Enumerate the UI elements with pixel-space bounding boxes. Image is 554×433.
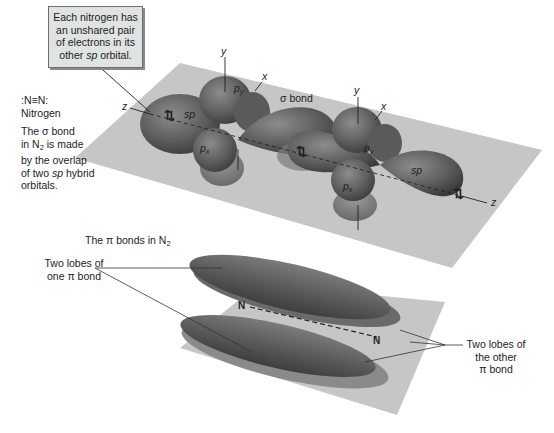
label-line: π bond bbox=[464, 363, 528, 376]
callout-line: an unshared pair bbox=[49, 24, 142, 37]
right-y-axis-label: y bbox=[354, 84, 359, 96]
orbital-sub: x bbox=[206, 147, 210, 156]
caption-line: of two sp hybrid bbox=[21, 167, 95, 180]
pi-title-text: The π bonds in N bbox=[85, 234, 166, 246]
orbital-sub: x bbox=[349, 185, 353, 194]
pi-title-sub: 2 bbox=[166, 239, 170, 248]
label-line: Two lobes of bbox=[44, 257, 104, 270]
callout-orbital: sp bbox=[86, 49, 97, 61]
left-z-axis-label: z bbox=[122, 100, 127, 112]
left-electron-pair-icon: ⇅ bbox=[164, 108, 175, 123]
label-line: Two lobes of bbox=[464, 338, 528, 351]
right-z-axis-label: z bbox=[491, 196, 496, 208]
caption-italic: sp bbox=[52, 167, 63, 179]
right-sp-label: sp bbox=[411, 164, 422, 176]
label-line: the other bbox=[464, 351, 528, 364]
callout-line: Each nitrogen has bbox=[49, 11, 142, 24]
pi-left-label: Two lobes of one π bond bbox=[44, 257, 104, 282]
pi-section-title: The π bonds in N2 bbox=[85, 234, 171, 251]
caption-line: The σ bond bbox=[21, 125, 95, 138]
nitrogen-name: Nitrogen bbox=[21, 107, 61, 120]
pi-atom-n-left: N bbox=[238, 300, 245, 311]
sigma-caption: The σ bond in N2 is made by the overlap … bbox=[21, 125, 95, 192]
callout-text: orbital. bbox=[97, 49, 131, 61]
nitrogen-formula: :N≡N: bbox=[21, 94, 48, 107]
caption-text: hybrid bbox=[63, 167, 95, 179]
left-sp-label: sp bbox=[184, 108, 195, 120]
caption-line: orbitals. bbox=[21, 179, 95, 192]
sigma-bond-label: σ bond bbox=[280, 92, 313, 104]
left-px-label: px bbox=[200, 142, 210, 156]
callout-line: other sp orbital. bbox=[49, 49, 142, 62]
pi-atom-n-right: N bbox=[373, 335, 380, 346]
left-y-axis-label: y bbox=[221, 45, 226, 57]
left-py-label: py bbox=[234, 82, 244, 96]
caption-text: of two bbox=[21, 167, 52, 179]
orbital-sub: y bbox=[240, 87, 244, 96]
caption-text: in N bbox=[21, 138, 40, 150]
caption-line: in N2 is made bbox=[21, 138, 95, 155]
right-py-label: py bbox=[364, 142, 374, 156]
right-px-label: px bbox=[343, 180, 353, 194]
right-px-lobe bbox=[331, 159, 375, 201]
caption-line: by the overlap bbox=[21, 154, 95, 167]
right-electron-pair-icon: ⇅ bbox=[453, 186, 464, 201]
label-line: one π bond bbox=[44, 270, 104, 283]
right-x-axis-label: x bbox=[381, 100, 386, 112]
callout-text: other bbox=[59, 49, 83, 61]
unshared-pair-callout: Each nitrogen has an unshared pair of el… bbox=[48, 6, 143, 68]
pi-right-label: Two lobes of the other π bond bbox=[464, 338, 528, 376]
left-x-axis-label: x bbox=[262, 70, 267, 82]
sigma-electron-pair-icon: ⇅ bbox=[296, 144, 307, 159]
caption-text: is made bbox=[44, 138, 84, 150]
orbital-sub: y bbox=[370, 147, 374, 156]
callout-line: of electrons in its bbox=[49, 36, 142, 49]
